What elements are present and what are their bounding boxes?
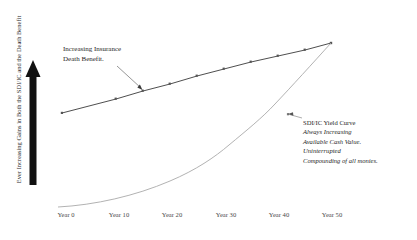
annotation-death-benefit: Increasing Insurance Death Benefit. <box>63 45 121 64</box>
up-arrow-icon <box>26 60 41 185</box>
x-tick-label-0: Year 0 <box>57 211 74 218</box>
x-tick-label-2: Year 20 <box>162 211 182 218</box>
leader-line-yield-curve <box>288 112 302 118</box>
annotation-yield-curve-line-3: Available Cash Value. <box>303 137 378 146</box>
chart-figure: Ever Increasing Gains in Both the SDI/IC… <box>0 0 417 240</box>
annotation-yield-curve-line-2: Always Increasing <box>303 127 378 136</box>
leader-line-death-benefit <box>117 66 143 90</box>
annotation-yield-curve-line-5: Compounding of all monies. <box>303 156 378 165</box>
x-tick-label-3: Year 30 <box>216 211 236 218</box>
annotation-death-benefit-line-1: Increasing Insurance <box>63 45 121 55</box>
annotation-death-benefit-line-2: Death Benefit. <box>63 55 121 65</box>
x-tick-label-1: Year 10 <box>109 211 129 218</box>
annotation-yield-curve: SDI/IC Yield Curve Always Increasing Ava… <box>303 118 378 165</box>
x-tick-label-5: Year 50 <box>322 211 342 218</box>
x-tick-label-4: Year 40 <box>269 211 289 218</box>
annotation-yield-curve-title: SDI/IC Yield Curve <box>303 118 378 127</box>
annotation-yield-curve-line-4: Uninterrupted <box>303 146 378 155</box>
series-yield-curve <box>58 43 331 207</box>
